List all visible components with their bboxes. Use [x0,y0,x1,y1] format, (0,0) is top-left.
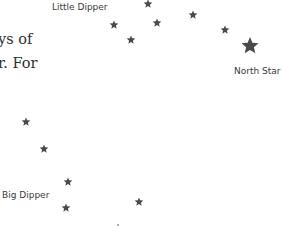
star-icon [153,19,162,27]
star-icon [221,26,230,34]
north-star-shape-icon [241,37,258,53]
star-icon [135,198,144,206]
little-dipper-stars [110,0,230,44]
star-field [0,0,283,226]
star-icon [62,204,71,212]
faint-star-dot-icon [117,224,119,226]
star-icon [144,0,153,8]
star-icon [22,118,31,126]
constellation-diagram: ys of r. For Little Dipper North Star Bi… [0,0,283,226]
north-star-icon [241,37,258,53]
big-dipper-stars [22,118,144,212]
star-icon [110,21,119,29]
star-icon [64,178,73,186]
star-icon [189,11,198,19]
star-icon [127,36,136,44]
star-icon [40,145,49,153]
